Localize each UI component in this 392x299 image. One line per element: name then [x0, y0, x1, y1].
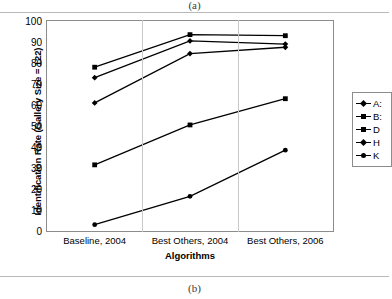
x-tick-label: Baseline, 2004: [63, 235, 126, 246]
series-K: [92, 148, 287, 227]
chart-panel: Identification Rate (Gallery Size = 122)…: [0, 14, 389, 276]
legend-item-K[interactable]: K: [356, 149, 389, 162]
legend-item-A[interactable]: A:: [356, 97, 389, 110]
y-tick-label: 50: [14, 121, 42, 132]
y-tick-label: 80: [14, 58, 42, 69]
y-tick-label: 90: [14, 37, 42, 48]
y-tick-label: 20: [14, 184, 42, 195]
series-line: [95, 99, 286, 165]
data-point: [92, 75, 98, 81]
legend-marker-icon: [356, 150, 371, 161]
series-H: [92, 44, 288, 105]
x-category-divider: [142, 20, 143, 232]
legend-label: B:: [373, 111, 382, 122]
data-point: [92, 65, 97, 70]
x-axis-title: Algorithms: [46, 250, 334, 261]
y-tick-label: 70: [14, 79, 42, 90]
data-point: [187, 38, 193, 44]
legend-label: K: [373, 150, 379, 161]
series-line: [95, 41, 286, 78]
y-tick-label: 10: [14, 205, 42, 216]
data-point: [92, 222, 97, 227]
data-point: [188, 123, 193, 128]
y-tick-label: 40: [14, 142, 42, 153]
figure-caption-bottom: (b): [0, 282, 389, 294]
legend-marker-icon: [356, 111, 371, 122]
legend-marker-icon: [356, 137, 371, 148]
series-lines: [47, 21, 333, 231]
data-point: [92, 162, 97, 167]
top-divider: [0, 12, 389, 13]
legend-label: A:: [373, 98, 382, 109]
series-D: [92, 96, 287, 167]
series-A: [92, 38, 288, 81]
y-axis-ticks: 0102030405060708090100: [14, 14, 42, 238]
legend-marker-icon: [356, 124, 371, 135]
y-tick-label: 100: [14, 16, 42, 27]
data-point: [282, 44, 288, 50]
bottom-divider: [0, 276, 389, 277]
x-category-divider: [238, 20, 239, 232]
legend-label: D: [373, 124, 380, 135]
x-axis-ticks: Baseline, 2004Best Others, 2004Best Othe…: [46, 235, 334, 251]
legend-item-D[interactable]: D: [356, 123, 389, 136]
y-tick-label: 0: [14, 226, 42, 237]
legend-label: H: [373, 137, 380, 148]
legend-item-B[interactable]: B:: [356, 110, 389, 123]
data-point: [188, 194, 193, 199]
legend-item-H[interactable]: H: [356, 136, 389, 149]
chart-legend[interactable]: A:B:DHK: [352, 92, 392, 167]
legend-marker-icon: [356, 98, 371, 109]
x-tick-label: Best Others, 2006: [247, 235, 324, 246]
y-tick-label: 30: [14, 163, 42, 174]
data-point: [92, 100, 98, 106]
data-point: [283, 148, 288, 153]
y-tick-label: 60: [14, 100, 42, 111]
data-point: [188, 32, 193, 37]
data-point: [283, 33, 288, 38]
x-tick-label: Best Others, 2004: [152, 235, 229, 246]
plot-area: [46, 20, 334, 232]
data-point: [283, 96, 288, 101]
series-line: [95, 150, 286, 225]
data-point: [187, 51, 193, 57]
figure-caption-top: (a): [0, 0, 389, 11]
